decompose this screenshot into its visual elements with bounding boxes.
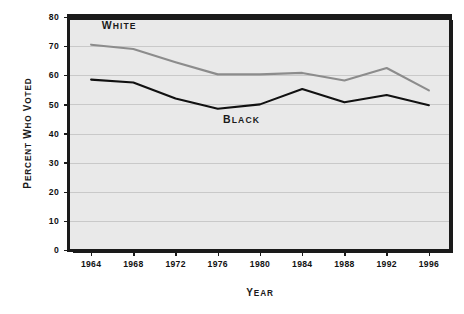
x-tick-label: 1992: [377, 259, 397, 269]
x-tick-label: 1964: [81, 259, 101, 269]
y-tick-label: 20: [49, 187, 59, 197]
y-tick-label: 80: [49, 12, 59, 22]
voter-turnout-line-chart: 01020304050607080 1964196819721976198019…: [0, 0, 464, 314]
x-tick-label: 1988: [334, 259, 354, 269]
series-label-black: BLACK: [223, 113, 260, 125]
x-tick-label: 1980: [250, 259, 270, 269]
x-tick-label: 1984: [292, 259, 312, 269]
y-tick-label: 70: [49, 41, 59, 51]
y-tick-label: 50: [49, 100, 59, 110]
y-tick-label: 0: [54, 245, 59, 255]
y-axis-title: PERCENT WHO VOTED: [22, 77, 33, 188]
x-tick-label: 1972: [165, 259, 185, 269]
y-tick-label: 40: [49, 129, 59, 139]
chart-figure: 01020304050607080 1964196819721976198019…: [0, 0, 464, 314]
y-tick-label: 60: [49, 70, 59, 80]
x-tick-label: 1996: [419, 259, 439, 269]
x-axis-title: YEAR: [246, 287, 274, 298]
y-tick-label: 30: [49, 158, 59, 168]
y-tick-label: 10: [49, 216, 59, 226]
x-tick-label: 1976: [208, 259, 228, 269]
series-label-white: WHITE: [102, 19, 137, 31]
x-tick-label: 1968: [123, 259, 143, 269]
